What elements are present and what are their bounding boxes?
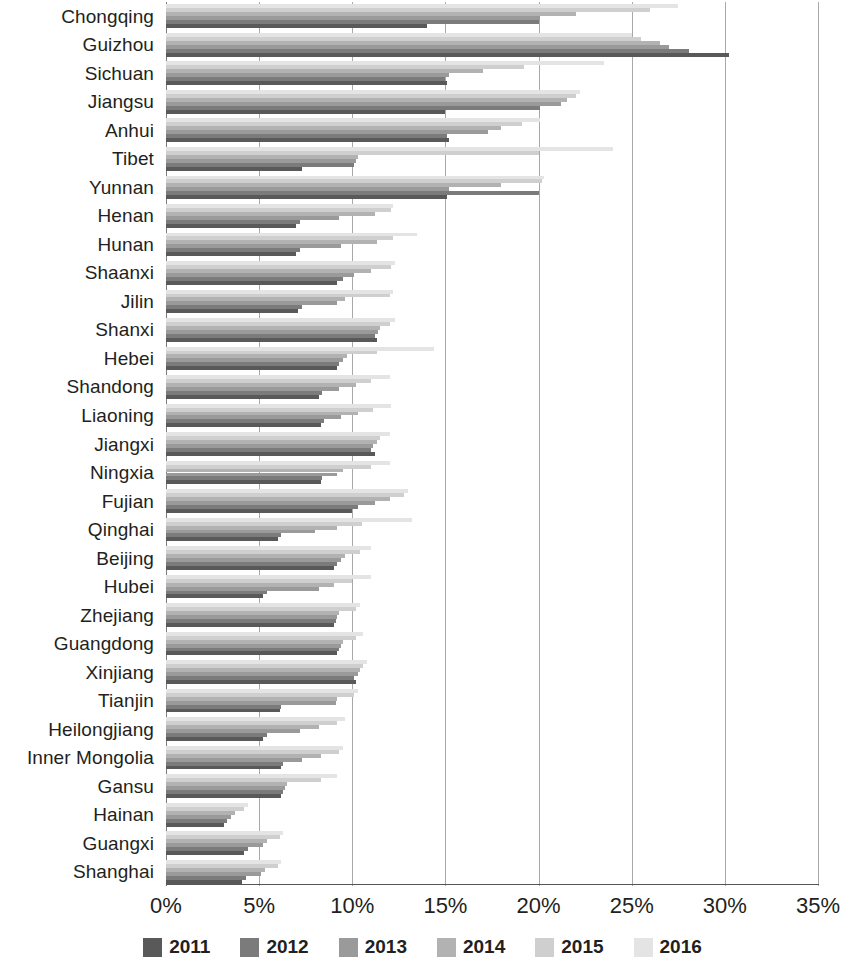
y-axis-label-shanxi: Shanxi — [95, 320, 154, 339]
legend: 201120122013201420152016 — [0, 932, 845, 962]
legend-item-2014[interactable]: 2014 — [437, 936, 505, 958]
legend-item-2011[interactable]: 2011 — [143, 936, 210, 958]
bar-2011 — [166, 81, 447, 85]
bar-2011 — [166, 851, 244, 855]
legend-swatch-2013 — [339, 938, 358, 957]
bar-2011 — [166, 423, 321, 427]
bar-2011 — [166, 195, 447, 199]
bar-group — [166, 660, 818, 684]
bar-2011 — [166, 138, 449, 142]
y-axis-label-xinjiang: Xinjiang — [86, 663, 154, 682]
legend-swatch-2014 — [437, 938, 456, 957]
y-axis-label-shaanxi: Shaanxi — [85, 263, 154, 282]
y-axis-label-guizhou: Guizhou — [83, 35, 154, 54]
bar-group — [166, 717, 818, 741]
bar-2011 — [166, 395, 319, 399]
y-axis-label-ningxia: Ningxia — [90, 463, 154, 482]
bar-group — [166, 546, 818, 570]
y-axis-label-hubei: Hubei — [104, 577, 154, 596]
legend-label-2014: 2014 — [463, 936, 505, 958]
bar-2011 — [166, 566, 334, 570]
y-axis-label-qinghai: Qinghai — [88, 520, 154, 539]
bar-group — [166, 831, 818, 855]
bar-2011 — [166, 537, 278, 541]
bar-2011 — [166, 309, 298, 313]
bar-2011 — [166, 224, 296, 228]
y-axis-label-guangxi: Guangxi — [83, 834, 154, 853]
bar-group — [166, 860, 818, 884]
bar-group — [166, 290, 818, 314]
bar-2011 — [166, 366, 337, 370]
bar-group — [166, 147, 818, 171]
horizontal-bar-chart: ChongqingGuizhouSichuanJiangsuAnhuiTibet… — [0, 0, 845, 964]
x-axis-line — [166, 884, 819, 885]
x-tick-25pct: 25% — [610, 893, 654, 919]
y-axis-labels: ChongqingGuizhouSichuanJiangsuAnhuiTibet… — [0, 2, 160, 886]
bar-group — [166, 632, 818, 656]
bar-2011 — [166, 110, 445, 114]
y-axis-label-henan: Henan — [98, 206, 155, 225]
x-tick-20pct: 20% — [517, 893, 561, 919]
x-axis-tick-labels: 0%5%10%15%20%25%30%35% — [0, 893, 845, 925]
y-axis-label-guangdong: Guangdong — [54, 634, 154, 653]
bar-2011 — [166, 480, 321, 484]
legend-label-2015: 2015 — [561, 936, 603, 958]
bar-group — [166, 204, 818, 228]
x-tick-15pct: 15% — [423, 893, 467, 919]
bar-group — [166, 233, 818, 257]
x-tick-35pct: 35% — [796, 893, 840, 919]
bar-group — [166, 318, 818, 342]
bar-group — [166, 575, 818, 599]
bar-2011 — [166, 594, 263, 598]
legend-label-2013: 2013 — [365, 936, 407, 958]
y-axis-label-jilin: Jilin — [121, 292, 154, 311]
bar-2011 — [166, 680, 356, 684]
bar-2011 — [166, 452, 375, 456]
y-axis-label-gansu: Gansu — [98, 777, 154, 796]
bar-group — [166, 375, 818, 399]
legend-swatch-2016 — [634, 938, 653, 957]
y-axis-label-jiangsu: Jiangsu — [88, 92, 154, 111]
y-axis-label-shandong: Shandong — [67, 377, 154, 396]
bar-group — [166, 489, 818, 513]
bar-group — [166, 746, 818, 770]
bar-group — [166, 432, 818, 456]
x-tick-5pct: 5% — [243, 893, 275, 919]
bar-group — [166, 404, 818, 428]
bar-group — [166, 518, 818, 542]
legend-item-2012[interactable]: 2012 — [240, 936, 308, 958]
y-axis-label-chongqing: Chongqing — [61, 7, 154, 26]
bar-group — [166, 4, 818, 28]
bar-group — [166, 176, 818, 200]
bar-group — [166, 118, 818, 142]
y-axis-label-tibet: Tibet — [112, 149, 154, 168]
legend-swatch-2015 — [535, 938, 554, 957]
bar-group — [166, 774, 818, 798]
legend-swatch-2012 — [240, 938, 259, 957]
y-axis-label-hainan: Hainan — [93, 805, 154, 824]
bar-group — [166, 461, 818, 485]
y-axis-label-beijing: Beijing — [96, 549, 154, 568]
legend-item-2016[interactable]: 2016 — [634, 936, 702, 958]
bar-group — [166, 689, 818, 713]
legend-item-2015[interactable]: 2015 — [535, 936, 603, 958]
plot-area — [166, 2, 818, 886]
bar-2011 — [166, 252, 296, 256]
x-tick-30pct: 30% — [703, 893, 747, 919]
legend-swatch-2011 — [143, 938, 162, 957]
bar-group — [166, 261, 818, 285]
bar-2011 — [166, 167, 302, 171]
legend-item-2013[interactable]: 2013 — [339, 936, 407, 958]
bar-2011 — [166, 766, 281, 770]
y-axis-label-anhui: Anhui — [105, 121, 154, 140]
bar-2011 — [166, 53, 729, 57]
y-axis-label-shanghai: Shanghai — [73, 862, 154, 881]
bar-group — [166, 33, 818, 57]
bar-group — [166, 347, 818, 371]
legend-label-2016: 2016 — [660, 936, 702, 958]
bar-group — [166, 90, 818, 114]
bar-2011 — [166, 281, 337, 285]
bar-2011 — [166, 509, 352, 513]
legend-label-2011: 2011 — [169, 936, 210, 958]
y-axis-label-liaoning: Liaoning — [81, 406, 154, 425]
